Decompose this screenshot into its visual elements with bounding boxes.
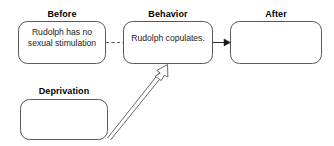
connector-deprivation-to-behavior <box>108 65 168 141</box>
node-label-after: After <box>230 9 322 19</box>
arrowhead-filled-after <box>224 39 231 46</box>
node-text-before: Rudolph has no sexual stimulation <box>20 27 104 49</box>
node-text-behavior: Rudolph copulates. <box>125 33 211 44</box>
node-box-after[interactable] <box>231 22 322 64</box>
node-label-behavior: Behavior <box>123 9 213 19</box>
contingency-diagram: Before Rudolph has no sexual stimulation… <box>0 0 334 146</box>
node-label-deprivation: Deprivation <box>20 86 108 96</box>
node-box-deprivation[interactable] <box>21 100 108 140</box>
node-label-before: Before <box>18 9 106 19</box>
diagram-canvas <box>0 0 334 146</box>
arrowhead-hollow-behavior <box>155 65 168 81</box>
